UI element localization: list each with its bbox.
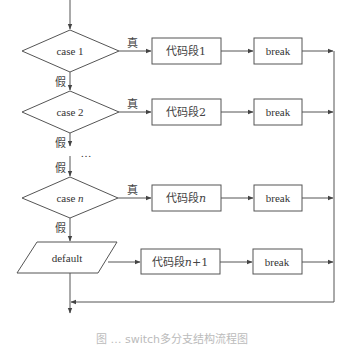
break-block-n1-label: break (265, 257, 289, 268)
false-label-case2: 假 (55, 138, 66, 149)
code-block-2-label: 代码段2 (166, 107, 206, 118)
code-block-n-label: 代码段n (166, 193, 206, 204)
break-block-n-label: break (266, 193, 290, 204)
decision-case2-label: case 2 (56, 107, 83, 118)
code-block-n-prefix: 代码段 (166, 192, 199, 205)
false-label-ellipsis: 假 (55, 163, 66, 174)
false-label-casen: 假 (55, 223, 66, 234)
default-label: default (52, 253, 83, 264)
true-label-casen: 真 (127, 185, 138, 196)
figure-caption: 图 … switch多分支结构流程图 (96, 330, 248, 346)
code-block-n-var: n (199, 192, 206, 205)
decision-casen-var: n (78, 192, 84, 204)
ellipsis-text: … (81, 148, 92, 159)
false-label-case1: 假 (55, 77, 66, 88)
code-block-n1-label: 代码段n+1 (152, 257, 208, 268)
decision-casen-label: case n (56, 193, 83, 204)
true-label-case2: 真 (127, 99, 138, 110)
code-block-n1-suffix: +1 (192, 256, 208, 269)
break-block-1-label: break (266, 46, 290, 57)
true-label-case1: 真 (127, 38, 138, 49)
code-block-1-label: 代码段1 (166, 46, 206, 57)
decision-casen-prefix: case (56, 192, 78, 204)
code-block-n1-prefix: 代码段 (152, 256, 185, 269)
break-block-2-label: break (266, 107, 290, 118)
decision-case1-label: case 1 (56, 46, 83, 57)
